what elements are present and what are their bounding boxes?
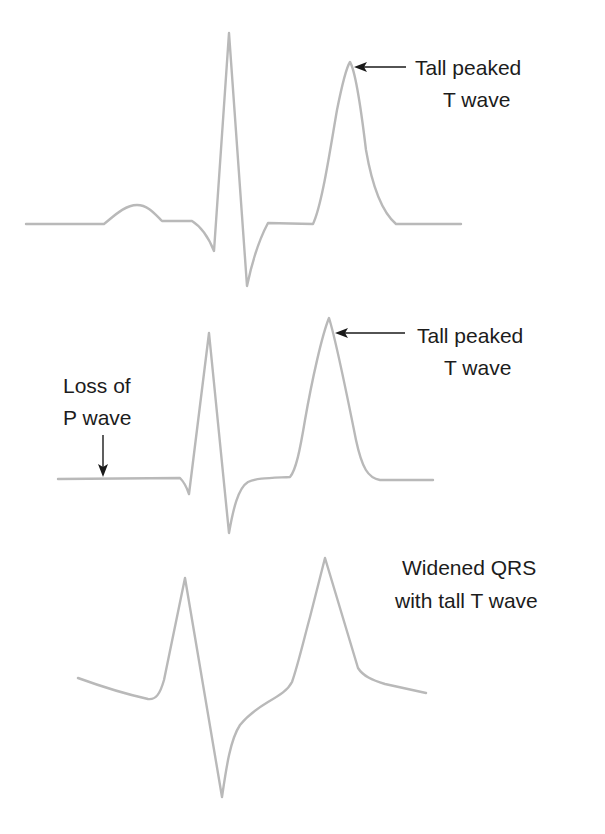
ecg-waveform-3 xyxy=(78,558,426,797)
panel-1-ecg-trace: Tall peaked T wave xyxy=(26,33,521,286)
annotation-3-line2: with tall T wave xyxy=(394,589,538,612)
annotation-2-line1: Tall peaked xyxy=(417,324,523,347)
annotation-1-line2: T wave xyxy=(443,88,510,111)
loss-of-p-wave-line2: P wave xyxy=(63,406,132,429)
annotation-1-line1: Tall peaked xyxy=(415,56,521,79)
panel-2-ecg-trace: Tall peaked T wave Loss of P wave xyxy=(58,318,523,533)
ecg-waveform-1 xyxy=(26,33,461,286)
ecg-hyperkalemia-diagram: Tall peaked T wave Tall peaked T wave Lo… xyxy=(0,0,605,834)
panel-3-ecg-trace: Widened QRS with tall T wave xyxy=(78,556,538,797)
loss-of-p-wave-line1: Loss of xyxy=(63,374,131,397)
annotation-3-line1: Widened QRS xyxy=(402,556,536,579)
annotation-2-line2: T wave xyxy=(444,356,511,379)
